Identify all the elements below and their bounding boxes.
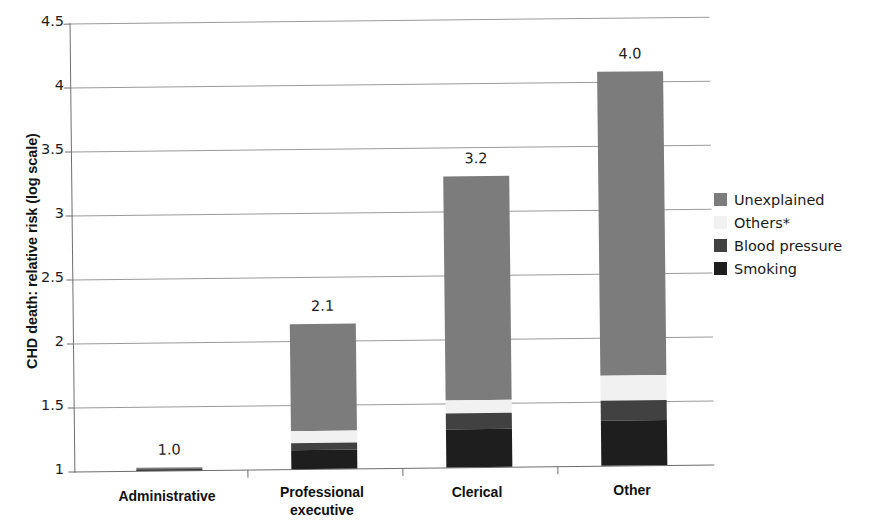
legend-swatch-icon [714,239,727,252]
x-axis-label-line: Professional [280,484,364,500]
legend-swatch-icon [714,262,727,275]
x-axis-label-line: Clerical [452,484,503,500]
x-axis-label-other: Other [557,481,707,499]
chart-container: CHD death: relative risk (log scale) 11.… [0,0,874,531]
x-axis-label-line: Administrative [118,488,215,504]
legend-item: Others* [714,211,872,234]
x-axis-label-clerical: Clerical [402,483,552,501]
legend-swatch-icon [714,193,727,206]
legend-swatch-icon [714,216,727,229]
legend-label: Others* [734,215,790,231]
legend-item: Blood pressure [714,234,872,257]
legend-label: Unexplained [734,192,825,208]
x-axis-label-professional-executive: Professionalexecutive [247,483,397,520]
chart-legend: UnexplainedOthers*Blood pressureSmoking [714,188,872,280]
legend-item: Unexplained [714,188,872,211]
legend-label: Smoking [734,261,797,277]
legend-item: Smoking [714,257,872,280]
x-axis-label-administrative: Administrative [92,487,242,505]
x-axis-label-line: executive [290,502,354,518]
x-axis-label-line: Other [613,482,650,498]
legend-label: Blood pressure [734,238,842,254]
